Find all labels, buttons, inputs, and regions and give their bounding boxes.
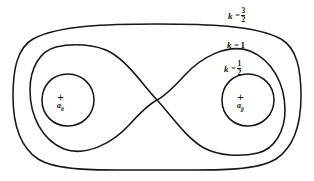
label-k-3-2-denominator: 2 <box>241 15 245 24</box>
label-k-3-2-numerator: 3 <box>241 7 245 15</box>
label-k-1-2-denominator: 2 <box>237 68 241 77</box>
focus-right-subscript: jj <box>241 106 244 112</box>
focus-left-subscript: ii <box>61 106 64 112</box>
focus-right: + ajj <box>237 93 244 112</box>
label-k-1-equals: = <box>233 41 241 50</box>
curve-k-1 <box>30 45 285 156</box>
label-k-3-2-fraction: 3 2 <box>241 7 245 24</box>
plus-marker-icon: + <box>237 93 243 101</box>
focus-right-label: ajj <box>237 102 244 112</box>
label-k-3-2-equals: = <box>234 11 242 20</box>
label-k-1-2-equals: = <box>230 64 238 73</box>
label-k-1: k = 1 <box>227 40 245 50</box>
level-curves-plot <box>0 0 314 181</box>
label-k-1-2-fraction: 1 2 <box>237 60 241 77</box>
focus-left-label: aii <box>57 102 64 112</box>
label-k-1-value: 1 <box>240 40 245 50</box>
label-k-1-2: k = 1 2 <box>224 60 241 77</box>
plus-marker-icon: + <box>57 93 63 101</box>
curve-k-1-2-right <box>222 74 274 126</box>
cassini-ovals-figure: k = 3 2 k = 1 k = 1 2 + aii + ajj <box>0 0 314 181</box>
label-k-3-2: k = 3 2 <box>228 7 245 24</box>
label-k-1-2-numerator: 1 <box>237 60 241 68</box>
curve-k-1-2-left <box>42 74 94 126</box>
focus-left: + aii <box>57 93 64 112</box>
